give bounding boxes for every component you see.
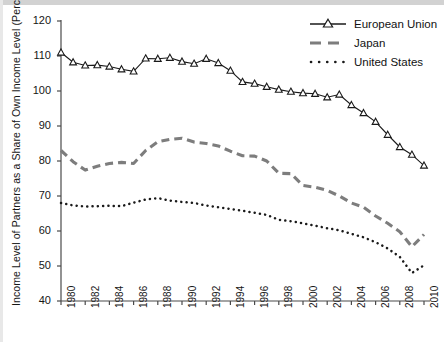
- series-japan: [61, 138, 424, 247]
- legend-item-japan: Japan: [308, 33, 437, 52]
- chart-legend: European Union Japan United States: [308, 14, 437, 71]
- legend-item-united-states: United States: [308, 52, 437, 71]
- series-united-states: [61, 198, 424, 273]
- legend-item-european-union: European Union: [308, 14, 437, 33]
- legend-key-european-union: [308, 17, 348, 31]
- chart-figure: Income Level of Partners as a Share of O…: [0, 0, 444, 342]
- legend-label-european-union: European Union: [354, 18, 437, 30]
- legend-key-united-states: [308, 55, 348, 69]
- legend-label-japan: Japan: [354, 37, 385, 49]
- legend-key-japan: [308, 36, 348, 50]
- legend-label-united-states: United States: [354, 56, 423, 68]
